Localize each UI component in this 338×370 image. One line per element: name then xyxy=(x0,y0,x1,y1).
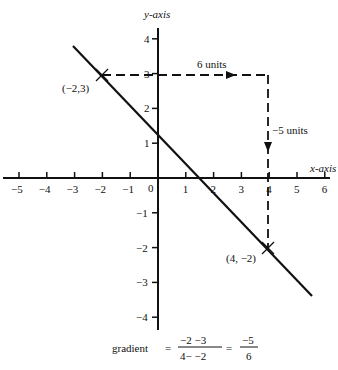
gradient-chart: −5−4−3−2−1123456 4321−1−2−3−4 y-axis x-a… xyxy=(0,0,338,370)
point-label-2: (4, −2) xyxy=(226,252,256,265)
fraction-1-numerator: −2 −3 xyxy=(180,334,207,346)
rise-arrow-icon xyxy=(264,142,272,152)
run-label: 6 units xyxy=(197,58,227,70)
graph-line xyxy=(73,46,312,296)
x-axis-label: x-axis xyxy=(309,162,336,174)
x-tick-label: 6 xyxy=(322,183,328,195)
origin-label: 0 xyxy=(148,182,154,194)
fraction-2-numerator: −5 xyxy=(242,334,254,346)
y-tick-label: 4 xyxy=(144,33,150,45)
y-tick-label: 2 xyxy=(144,102,150,114)
equals-2: = xyxy=(226,342,232,354)
x-ticks: −5−4−3−2−1123456 xyxy=(11,172,328,195)
equals-1: = xyxy=(165,342,171,354)
y-tick-label: 3 xyxy=(144,68,150,80)
x-tick-label: −3 xyxy=(67,183,79,195)
y-tick-label: −1 xyxy=(136,207,148,219)
fraction-1-denominator: 4− −2 xyxy=(180,350,206,362)
point-label-1: (−2,3) xyxy=(62,82,90,95)
x-tick-label: −4 xyxy=(39,183,51,195)
rise-label: −5 units xyxy=(272,124,308,136)
y-axis-label: y-axis xyxy=(143,8,170,20)
x-tick-label: 1 xyxy=(183,183,189,195)
x-tick-label: −1 xyxy=(122,183,134,195)
y-tick-label: 1 xyxy=(144,137,150,149)
x-tick-label: −2 xyxy=(94,183,106,195)
run-arrow-icon xyxy=(226,71,236,79)
x-tick-label: 3 xyxy=(238,183,244,195)
y-tick-label: −4 xyxy=(136,311,148,323)
y-tick-label: −3 xyxy=(136,276,148,288)
x-tick-label: 5 xyxy=(294,183,300,195)
fraction-2-denominator: 6 xyxy=(246,350,252,362)
gradient-label: gradient xyxy=(112,342,148,354)
x-tick-label: −5 xyxy=(11,183,23,195)
y-tick-label: −2 xyxy=(136,242,148,254)
